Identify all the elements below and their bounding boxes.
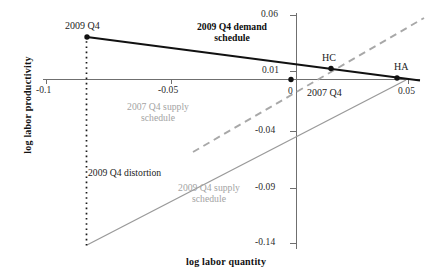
annotation-demand-schedule: 2009 Q4 demand schedule — [169, 22, 295, 44]
annotation-demand-schedule-line2: schedule — [169, 33, 295, 44]
y-tick-label--0.04: -0.04 — [255, 125, 275, 136]
y-axis-title: log labor productivity — [22, 56, 33, 153]
y-tick-label--0.14: -0.14 — [255, 237, 275, 248]
data-point-2007q4 — [288, 77, 293, 82]
point-label-2007q4: 2007 Q4 — [307, 87, 342, 98]
x-tick-label-0: 0 — [288, 86, 293, 97]
data-point-ha — [394, 75, 399, 80]
annotation-2009q4-supply-line2: schedule — [151, 194, 267, 205]
point-label-hc: HC — [322, 52, 336, 63]
y-axis-title-wrapper: log labor productivity — [17, 35, 35, 175]
x-tick-label--0.1: -0.1 — [36, 85, 51, 96]
annotation-2009q4-distortion: 2009 Q4 distortion — [88, 168, 161, 179]
x-tick-label--0.05: -0.05 — [158, 85, 178, 96]
point-label-2009q4: 2009 Q4 — [65, 20, 100, 31]
chart-figure: -0.1 -0.05 0 0.05 0.06 0.01 -0.04 -0.09 … — [0, 0, 436, 276]
y-tick-label-0.06: 0.06 — [261, 9, 278, 20]
annotation-2007q4-supply: 2007 Q4 supply schedule — [100, 102, 216, 124]
annotation-2009q4-supply: 2009 Q4 supply schedule — [151, 183, 267, 205]
x-axis-title: log labor quantity — [186, 256, 266, 267]
y-tick-label-0.01: 0.01 — [262, 65, 279, 76]
data-point-2009q4 — [84, 34, 89, 39]
x-tick-label-0.05: 0.05 — [398, 86, 415, 97]
data-point-hc — [328, 66, 333, 71]
annotation-2007q4-supply-line2: schedule — [100, 113, 216, 124]
point-label-ha: HA — [394, 61, 408, 72]
